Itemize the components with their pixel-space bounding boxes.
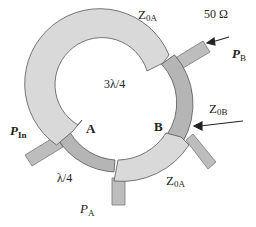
label-pb: PB	[232, 46, 246, 63]
label-pa: PA	[79, 201, 95, 218]
label-z0a-bottom: Z0A	[166, 173, 185, 189]
ring-segment-z0b	[162, 55, 193, 142]
arrow-z0b-head	[194, 122, 202, 130]
ring-hybrid-diagram: Z0A 50 Ω PB 3λ/4 Z0B PIn A B λ/4 Z0A PA	[0, 0, 256, 227]
ring-segment-z0a-bottom	[114, 133, 189, 181]
label-node-b: B	[154, 119, 163, 134]
label-50-ohm: 50 Ω	[204, 7, 228, 21]
label-z0b: Z0B	[209, 101, 227, 117]
arrow-pb-head	[207, 38, 215, 45]
ring-segment-lambda-4	[59, 133, 115, 172]
label-3lambda-4: 3λ/4	[104, 77, 125, 91]
label-node-a: A	[86, 121, 96, 136]
label-lambda-4: λ/4	[57, 171, 72, 185]
label-z0a-top: Z0A	[138, 7, 157, 23]
arrow-z0b-line	[200, 121, 243, 126]
diagram-canvas: Z0A 50 Ω PB 3λ/4 Z0B PIn A B λ/4 Z0A PA	[0, 0, 256, 227]
label-pin: PIn	[10, 123, 26, 140]
port-a-stub	[112, 178, 125, 205]
ring-segment-3lambda-4	[25, 9, 169, 145]
port-iso-stub	[186, 134, 216, 169]
